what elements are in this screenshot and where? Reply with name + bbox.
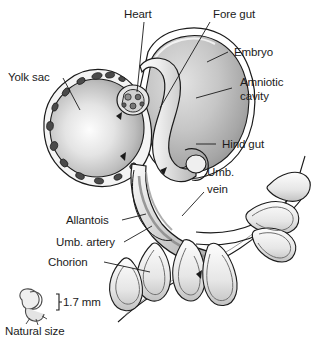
leader-umb-artery <box>124 226 152 242</box>
label-umb-vein-line2: vein <box>207 183 228 196</box>
label-allantois: Allantois <box>66 214 109 227</box>
leader-umb-vein <box>182 192 204 216</box>
label-fore-gut: Fore gut <box>213 8 255 21</box>
embryo-diagram: Heart Fore gut Embryo Amniotic cavity Hi… <box>0 0 313 343</box>
scale-measure-label: 1.7 mm <box>63 296 101 309</box>
label-chorion: Chorion <box>48 256 88 269</box>
label-umb-artery: Umb. artery <box>56 236 115 249</box>
label-hind-gut: Hind gut <box>222 138 264 151</box>
label-amniotic-cavity-line2: cavity <box>240 90 269 103</box>
label-umb-vein-line1: Umb. <box>207 166 234 179</box>
label-embryo: Embryo <box>234 46 273 59</box>
heart-group <box>117 85 149 115</box>
scale-caption-label: Natural size <box>5 325 65 338</box>
label-amniotic-cavity-line1: Amniotic <box>240 76 283 89</box>
scale-bracket <box>56 294 62 310</box>
label-yolk-sac: Yolk sac <box>8 71 50 84</box>
scale-embryo-sketch <box>20 289 62 325</box>
label-heart: Heart <box>124 8 152 21</box>
